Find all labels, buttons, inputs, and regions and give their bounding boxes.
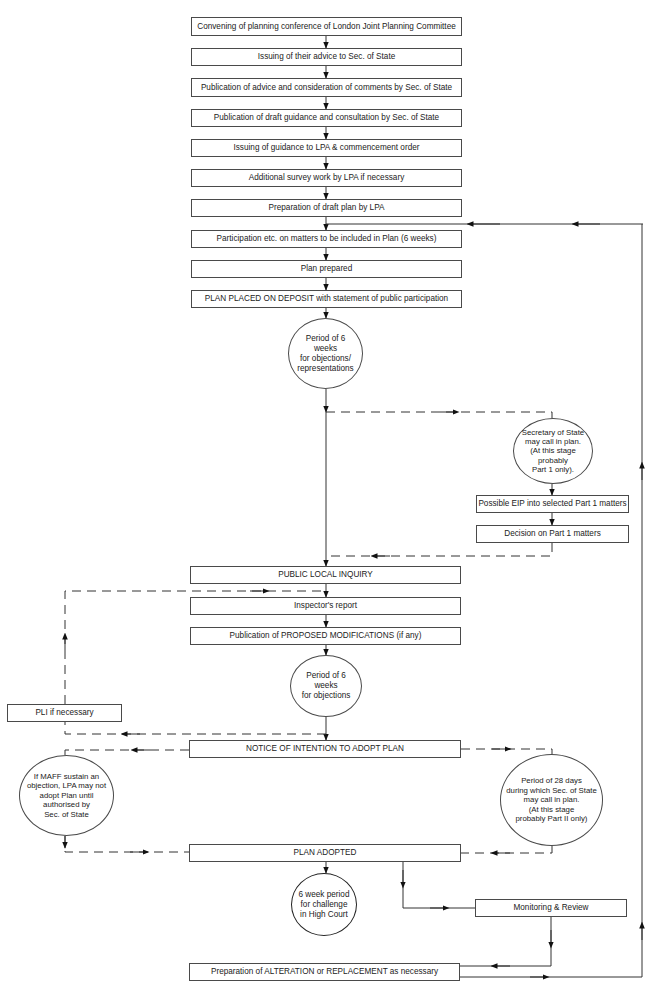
circle-label: Period of 6 weeks for objections/ repres… [293,334,358,374]
circle-maff-objection: If MAFF sustain an objection, LPA may no… [19,755,114,836]
step-decision-part1: Decision on Part 1 matters [476,525,629,543]
step-convening-conference: Convening of planning conference of Lond… [191,17,462,36]
step-label: Convening of planning conference of Lond… [197,22,456,32]
circle-label: Period of 28 days during which Sec. of S… [506,776,597,823]
step-inspectors-report: Inspector's report [190,597,461,615]
step-label: Issuing of guidance to LPA & commencemen… [234,143,420,153]
step-label: PLAN ADOPTED [294,848,357,858]
circle-modification-objections: Period of 6 weeks for objections [290,655,362,717]
step-label: Additional survey work by LPA if necessa… [249,173,404,183]
step-label: Plan prepared [301,264,352,274]
step-possible-eip: Possible EIP into selected Part 1 matter… [476,495,629,513]
step-label: Preparation of ALTERATION or REPLACEMENT… [211,967,438,977]
step-pli-if-necessary: PLI if necessary [7,704,122,722]
step-label: NOTICE OF INTENTION TO ADOPT PLAN [246,744,404,754]
step-plan-prepared: Plan prepared [191,260,462,278]
step-participation: Participation etc. on matters to be incl… [191,230,462,248]
step-label: PUBLIC LOCAL INQUIRY [278,570,373,580]
circle-high-court-challenge: 6 week period for challenge in High Cour… [291,873,357,936]
step-plan-on-deposit: PLAN PLACED ON DEPOSIT with statement of… [191,290,462,308]
step-label: Issuing of their advice to Sec. of State [258,52,395,62]
step-label: Monitoring & Review [513,903,588,913]
step-issuing-guidance: Issuing of guidance to LPA & commencemen… [191,139,462,157]
step-label: Publication of draft guidance and consul… [214,113,439,123]
step-plan-adopted: PLAN ADOPTED [189,844,461,862]
step-label: Preparation of draft plan by LPA [269,203,385,213]
step-issuing-advice: Issuing of their advice to Sec. of State [191,48,462,66]
step-monitoring-review: Monitoring & Review [475,899,627,917]
circle-label: 6 week period for challenge in High Cour… [299,890,350,920]
circle-label: If MAFF sustain an objection, LPA may no… [27,772,106,819]
step-notice-of-intention: NOTICE OF INTENTION TO ADOPT PLAN [189,740,461,758]
step-draft-guidance: Publication of draft guidance and consul… [191,109,462,127]
step-proposed-modifications: Publication of PROPOSED MODIFICATIONS (i… [190,627,461,645]
step-label: Possible EIP into selected Part 1 matter… [478,499,626,509]
step-label: Publication of advice and consideration … [201,83,452,93]
step-label: Inspector's report [294,601,357,611]
step-additional-survey: Additional survey work by LPA if necessa… [191,169,462,187]
circle-label: Period of 6 weeks for objections [295,671,357,701]
step-label: Decision on Part 1 matters [504,529,600,539]
step-label: PLI if necessary [35,708,93,718]
step-label: PLAN PLACED ON DEPOSIT with statement of… [205,294,448,304]
circle-28-day-period: Period of 28 days during which Sec. of S… [500,754,603,846]
circle-sos-call-in: Secretary of State may call in plan. (At… [513,418,593,484]
step-publication-advice: Publication of advice and consideration … [191,78,462,97]
step-draft-plan: Preparation of draft plan by LPA [191,199,462,217]
step-public-local-inquiry: PUBLIC LOCAL INQUIRY [190,566,461,584]
step-label: Participation etc. on matters to be incl… [217,234,437,244]
circle-label: Secretary of State may call in plan. (At… [522,428,584,474]
step-alteration-replacement: Preparation of ALTERATION or REPLACEMENT… [189,963,460,981]
step-label: Publication of PROPOSED MODIFICATIONS (i… [230,631,422,641]
circle-objection-period: Period of 6 weeks for objections/ repres… [288,318,363,389]
